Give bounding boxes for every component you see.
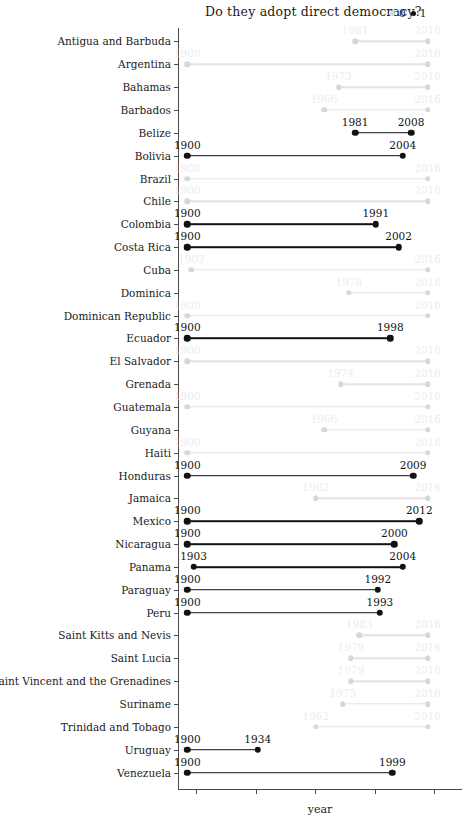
data-point-start[interactable] (185, 450, 191, 456)
data-point-start[interactable] (184, 518, 191, 525)
data-point-start[interactable] (185, 313, 191, 319)
value-label-start: 1962 (302, 710, 329, 722)
data-point-end[interactable] (395, 244, 402, 251)
data-point-end[interactable] (391, 541, 398, 548)
data-point-start[interactable] (185, 359, 191, 365)
row-label-honduras: Honduras (119, 470, 171, 482)
legend-dot-0 (390, 11, 395, 16)
data-point-end[interactable] (425, 199, 431, 205)
data-point-end[interactable] (425, 633, 431, 639)
value-label-start: 1900 (174, 733, 201, 745)
data-point-start[interactable] (185, 62, 191, 68)
data-point-start[interactable] (184, 472, 191, 479)
data-point-start[interactable] (184, 221, 191, 228)
data-point-end[interactable] (425, 404, 431, 410)
y-tick (174, 681, 178, 682)
data-point-end[interactable] (425, 701, 431, 707)
table-row[interactable]: Nicaragua19002000 (178, 533, 462, 556)
data-point-end[interactable] (387, 335, 394, 342)
data-point-start[interactable] (352, 39, 358, 45)
data-point-start[interactable] (321, 427, 327, 433)
data-point-end[interactable] (399, 152, 406, 159)
data-point-end[interactable] (416, 518, 423, 525)
data-point-end[interactable] (399, 564, 406, 571)
value-label-start: 1900 (174, 573, 201, 585)
value-label-start: 1966 (311, 93, 338, 105)
table-row[interactable]: Paraguay19001992 (178, 578, 462, 601)
data-point-start[interactable] (321, 107, 327, 113)
data-point-start[interactable] (190, 564, 197, 571)
data-point-start[interactable] (184, 769, 191, 776)
legend-item-1[interactable]: 1 (411, 8, 427, 19)
row-label-guyana: Guyana (131, 424, 171, 436)
data-point-end[interactable] (425, 313, 431, 319)
data-point-end[interactable] (425, 381, 431, 387)
data-point-end[interactable] (425, 176, 431, 182)
value-label-start: 1900 (174, 436, 201, 448)
data-point-end[interactable] (425, 427, 431, 433)
value-label-start: 1979 (338, 664, 365, 676)
data-point-end[interactable] (410, 472, 417, 479)
data-point-end[interactable] (254, 746, 261, 753)
data-point-start[interactable] (184, 587, 191, 594)
x-tick (315, 790, 316, 794)
data-point-start[interactable] (184, 541, 191, 548)
data-point-start[interactable] (185, 404, 191, 410)
range-segment (187, 612, 380, 614)
legend-item-0[interactable]: 0 (390, 8, 406, 19)
data-point-start[interactable] (184, 152, 191, 159)
data-point-end[interactable] (425, 678, 431, 684)
value-label-start: 1973 (325, 70, 352, 82)
data-point-start[interactable] (189, 267, 195, 273)
data-point-start[interactable] (185, 199, 191, 205)
data-point-start[interactable] (185, 176, 191, 182)
data-point-start[interactable] (352, 130, 359, 137)
data-point-end[interactable] (425, 724, 431, 730)
table-row[interactable]: Dominican Republic19002016 (178, 304, 462, 327)
data-point-start[interactable] (356, 633, 362, 639)
data-point-end[interactable] (425, 84, 431, 90)
table-row[interactable]: Panama19032004 (178, 556, 462, 579)
data-point-end[interactable] (408, 130, 415, 137)
data-point-end[interactable] (425, 359, 431, 365)
data-point-end[interactable] (377, 609, 384, 616)
data-point-end[interactable] (425, 267, 431, 273)
table-row[interactable]: Colombia19001991 (178, 213, 462, 236)
data-point-start[interactable] (313, 724, 319, 730)
data-point-end[interactable] (389, 769, 396, 776)
data-point-end[interactable] (425, 450, 431, 456)
table-row[interactable]: Mexico19002012 (178, 510, 462, 533)
data-point-start[interactable] (348, 678, 354, 684)
table-row[interactable]: Trinidad and Tobago19622016 (178, 715, 462, 738)
range-segment (187, 223, 376, 225)
data-point-end[interactable] (373, 221, 380, 228)
data-point-start[interactable] (346, 290, 352, 296)
data-point-end[interactable] (425, 290, 431, 296)
data-point-start[interactable] (348, 656, 354, 662)
table-row[interactable]: Uruguay19001934 (178, 738, 462, 761)
data-point-start[interactable] (336, 84, 342, 90)
table-row[interactable]: Belize19812008 (178, 121, 462, 144)
data-point-start[interactable] (184, 746, 191, 753)
value-label-start: 1900 (174, 504, 201, 516)
data-point-start[interactable] (184, 609, 191, 616)
x-axis-label: year (178, 803, 462, 816)
value-label-end: 2009 (400, 459, 427, 471)
value-label-end: 2016 (414, 413, 441, 425)
table-row[interactable]: Venezuela19001999 (178, 761, 462, 784)
data-point-end[interactable] (425, 656, 431, 662)
data-point-start[interactable] (338, 381, 344, 387)
data-point-start[interactable] (184, 244, 191, 251)
data-point-end[interactable] (425, 496, 431, 502)
value-label-end: 1934 (244, 733, 271, 745)
data-point-end[interactable] (425, 107, 431, 113)
data-point-end[interactable] (425, 62, 431, 68)
value-label-end: 2016 (414, 162, 441, 174)
data-point-start[interactable] (184, 335, 191, 342)
data-point-end[interactable] (425, 39, 431, 45)
data-point-start[interactable] (313, 496, 319, 502)
data-point-end[interactable] (375, 587, 382, 594)
data-point-start[interactable] (340, 701, 346, 707)
table-row[interactable]: Chile19002016 (178, 190, 462, 213)
row-label-haiti: Haiti (145, 447, 171, 459)
